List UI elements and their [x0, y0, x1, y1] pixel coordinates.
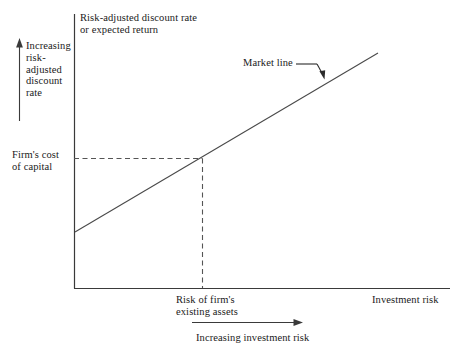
market-line [75, 53, 378, 232]
increasing-rate-arrow-label: Increasing risk- adjusted discount rate [26, 40, 71, 99]
market-line-callout-elbow [317, 64, 322, 73]
y-axis-title: Risk-adjusted discount rate or expected … [80, 12, 197, 36]
risk-of-firms-existing-assets-label: Risk of firm's existing assets [176, 294, 238, 318]
x-axis-title: Investment risk [372, 294, 439, 306]
market-line-label: Market line [243, 57, 293, 69]
market-line-chart: Risk-adjusted discount rate or expected … [0, 0, 454, 357]
firms-cost-of-capital-label: Firm's cost of capital [12, 149, 59, 173]
increasing-rate-arrow-head [16, 38, 23, 48]
market-line-callout-arrow-head [319, 70, 325, 79]
increasing-investment-risk-label: Increasing investment risk [196, 332, 309, 344]
increasing-risk-arrow-head [294, 319, 304, 326]
